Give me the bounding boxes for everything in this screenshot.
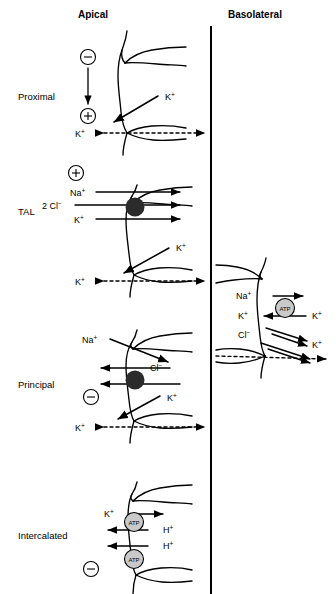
k-plus-romk-label-principal: K+ xyxy=(167,392,177,403)
principal-k-channel-arrow xyxy=(118,396,160,419)
na-plus-enac-label: Na+ xyxy=(82,334,98,345)
proximal-cell-membrane xyxy=(118,31,186,155)
column-header-basolateral: Basolateral xyxy=(228,9,282,20)
tal-k-channel-arrow xyxy=(124,248,169,273)
cl-minus-label-basolateral: Cl− xyxy=(238,329,251,340)
diagram-linework: Apical Basolateral Proximal TAL Principa… xyxy=(0,0,336,594)
segment-label-principal: Principal xyxy=(18,379,54,390)
na-k-atpase-label: ATP xyxy=(279,306,290,312)
cl-minus-nkcc-label: 2 Cl− xyxy=(42,200,62,211)
k-plus-paracellular-label: K+ xyxy=(75,128,85,139)
chloride-transporter xyxy=(126,371,145,390)
h-plus-h-atpase-label: H+ xyxy=(163,540,174,551)
segment-label-intercalated: Intercalated xyxy=(18,530,68,541)
nkcc2-transporter xyxy=(126,198,145,217)
na-plus-nka-label: Na+ xyxy=(236,290,252,301)
k-plus-channel-label: K+ xyxy=(165,91,175,102)
segment-label-proximal: Proximal xyxy=(18,91,55,102)
k-plus-paracellular-label-principal: K+ xyxy=(75,422,85,433)
diagram-canvas: Apical Basolateral Proximal TAL Principa… xyxy=(0,0,336,594)
k-plus-paracellular-label-tal: K+ xyxy=(75,276,85,287)
k-plus-in-label: K+ xyxy=(312,310,322,321)
principal-enac-arrow xyxy=(110,339,168,362)
intercalated-cell-membrane xyxy=(128,482,192,594)
basolateral-paracellular-arrow xyxy=(216,356,326,359)
k-plus-hk-atpase-label: K+ xyxy=(104,508,114,519)
column-header-apical: Apical xyxy=(78,9,108,20)
k-plus-nka-label: K+ xyxy=(238,310,248,321)
k-plus-out-label: K+ xyxy=(312,339,322,350)
cl-minus-label-principal: Cl− xyxy=(150,362,163,373)
na-plus-nkcc-label: Na+ xyxy=(70,187,86,198)
h-atpase-label: ATP xyxy=(128,557,139,563)
segment-label-tal: TAL xyxy=(18,206,35,217)
hk-atpase-label: ATP xyxy=(128,520,139,526)
k-plus-nkcc-label: K+ xyxy=(74,214,84,225)
k-plus-romk-label-tal: K+ xyxy=(176,242,186,253)
h-plus-hk-atpase-label: H+ xyxy=(163,524,174,535)
